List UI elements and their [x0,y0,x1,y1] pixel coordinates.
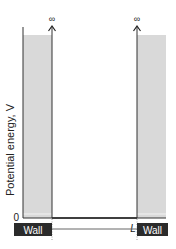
y-axis-label: Potential energy, V [4,103,16,196]
infinity-right-label: ∞ [134,14,140,24]
right-wall-region [137,35,166,218]
wall-right-label: Wall [143,225,162,236]
y-axis-label-text: Potential energy, V [4,103,16,196]
y-zero-label: 0 [13,212,19,223]
infinity-left-label: ∞ [49,14,55,24]
wall-left-label: Wall [23,225,42,236]
left-wall-region [23,35,52,218]
particle-in-box-diagram: ∞ ∞ Potential energy, V 0 0 L x Wall Wal… [0,0,176,249]
